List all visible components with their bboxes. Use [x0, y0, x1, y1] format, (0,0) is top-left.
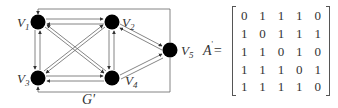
- matrix-cell: 0: [253, 26, 271, 42]
- vertex-v1: [31, 15, 46, 30]
- matrix-row: 1 1 0 1 0: [235, 44, 327, 60]
- matrix-cell: 0: [290, 62, 308, 78]
- vertex-v3: [31, 71, 46, 86]
- matrix-cell: 1: [290, 44, 308, 60]
- vertex-label-v1: V1: [17, 15, 29, 32]
- matrix-cell: 1: [235, 62, 253, 78]
- directed-graph: V1 V2 V3 V4 V5 G': [0, 0, 200, 108]
- matrix-cell: 1: [290, 8, 308, 24]
- adjacency-matrix: A'= 0 1 1 1 0 1 0 1 1 1 1 1 0 1 0 1 1: [203, 6, 333, 98]
- matrix-cell: 1: [290, 79, 308, 95]
- matrix-cell: 0: [309, 79, 327, 95]
- matrix-row: 1 0 1 1 1: [235, 26, 327, 42]
- matrix-cell: 1: [290, 26, 308, 42]
- matrix-cell: 1: [235, 79, 253, 95]
- matrix-cell: 1: [253, 8, 271, 24]
- matrix-cell: 0: [309, 44, 327, 60]
- vertex-v2: [105, 15, 120, 30]
- matrix-cell: 1: [309, 62, 327, 78]
- matrix-row: 1 1 1 0 1: [235, 62, 327, 78]
- matrix-cell: 1: [309, 26, 327, 42]
- vertex-label-v3: V3: [17, 71, 30, 88]
- matrix-cell: 1: [253, 62, 271, 78]
- matrix-name: A'=: [203, 42, 222, 59]
- graph-label: G': [82, 92, 96, 107]
- matrix-cell: 1: [253, 44, 271, 60]
- matrix-cell: 1: [272, 79, 290, 95]
- matrix-row: 1 1 1 1 0: [235, 79, 327, 95]
- matrix-row: 0 1 1 1 0: [235, 8, 327, 24]
- matrix-brackets: 0 1 1 1 0 1 0 1 1 1 1 1 0 1 0 1 1 1 0 1: [232, 6, 330, 96]
- vertex-v5: [163, 43, 178, 58]
- matrix-cell: 1: [253, 79, 271, 95]
- matrix-cell: 1: [272, 62, 290, 78]
- vertex-label-v4: V4: [125, 73, 138, 90]
- matrix-cell: 1: [272, 8, 290, 24]
- matrix-cell: 0: [272, 44, 290, 60]
- matrix-cell: 1: [272, 26, 290, 42]
- matrix-cell: 1: [235, 26, 253, 42]
- vertex-label-v5: V5: [181, 43, 194, 60]
- matrix-cell: 1: [235, 44, 253, 60]
- matrix-cell: 0: [235, 8, 253, 24]
- matrix-cell: 0: [309, 8, 327, 24]
- vertex-v4: [105, 71, 120, 86]
- vertex-label-v2: V2: [122, 15, 135, 32]
